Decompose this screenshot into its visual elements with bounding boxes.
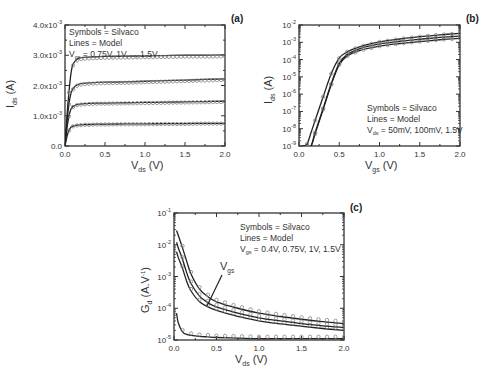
- y-tick-label: 10-4: [282, 54, 296, 65]
- legend-line-2: Lines = Model: [240, 233, 293, 243]
- y-tick-label: 10-2: [282, 19, 296, 30]
- y-tick-label: 10-6: [282, 88, 296, 99]
- silvaco-symbol: [223, 306, 226, 309]
- y-axis-label-a: Ids (A): [4, 80, 18, 108]
- y-tick-label: 3.0x10-3: [33, 49, 62, 60]
- silvaco-symbol: [215, 298, 218, 301]
- panel-label-a: (a): [231, 13, 243, 24]
- legend-line-3: Vds = 50mV, 100mV, 1.5V: [367, 125, 463, 136]
- x-tick-label: 2.0: [454, 150, 466, 159]
- silvaco-symbol: [334, 319, 337, 322]
- silvaco-symbol: [308, 335, 311, 338]
- silvaco-symbol: [283, 313, 286, 316]
- silvaco-symbol: [291, 335, 294, 338]
- y-tick-label: 10-1: [157, 207, 171, 218]
- legend-line-1: Symbols = Silvaco: [240, 222, 310, 232]
- silvaco-symbol: [325, 318, 328, 321]
- x-tick-label: 2.0: [219, 150, 231, 159]
- silvaco-symbol: [291, 315, 294, 318]
- silvaco-symbol: [206, 333, 209, 336]
- silvaco-symbol: [249, 308, 252, 311]
- x-axis-label-c: Vds (V): [235, 353, 267, 367]
- silvaco-symbol: [283, 335, 286, 338]
- figure: (a) 0.00.51.01.52.00.01.0x10-32.0x10-33.…: [0, 0, 496, 384]
- y-tick-label: 2.0x10-3: [33, 80, 62, 91]
- x-tick-label: 1.0: [139, 150, 151, 159]
- silvaco-symbol: [215, 303, 218, 306]
- y-tick-label: 4.0x10-3: [33, 19, 62, 30]
- vgs-annotation-label: Vgs: [220, 260, 235, 275]
- chart-c: (c) 0.00.51.01.52.010-510-410-310-210-1 …: [139, 202, 362, 367]
- x-tick-label: 0.5: [334, 150, 346, 159]
- y-tick-label: 10-3: [157, 271, 171, 282]
- silvaco-symbol: [266, 311, 269, 314]
- y-tick-label: 10-8: [282, 123, 296, 134]
- silvaco-symbol: [249, 335, 252, 338]
- silvaco-symbol: [189, 332, 192, 335]
- y-tick-label: 10-5: [282, 71, 296, 82]
- legend-line-1: Symbols = Silvaco: [367, 103, 437, 113]
- legend-line-2: Lines = Model: [69, 38, 122, 48]
- silvaco-symbol: [300, 316, 303, 319]
- legend-b: Symbols = Silvaco Lines = Model Vds = 50…: [367, 103, 463, 136]
- x-axis-label-a: Vds (V): [131, 159, 163, 173]
- silvaco-symbol: [198, 333, 201, 336]
- x-tick-label: 0.0: [293, 150, 305, 159]
- model-line: [65, 79, 225, 146]
- silvaco-symbol: [240, 306, 243, 309]
- y-axis-label-c: Gd (A.V-1): [139, 267, 153, 313]
- y-axis-label-b: Ids (A): [262, 76, 276, 104]
- x-axis-label-b: Vgs (V): [365, 159, 397, 174]
- silvaco-symbol: [240, 335, 243, 338]
- legend-line-1: Symbols = Silvaco: [69, 27, 139, 37]
- y-tick-label: 10-3: [282, 36, 296, 47]
- y-tick-label: 10-7: [282, 105, 296, 116]
- silvaco-symbol: [317, 317, 320, 320]
- x-tick-label: 1.0: [253, 344, 265, 353]
- silvaco-symbol: [325, 335, 328, 338]
- ticks-a: 0.00.51.01.52.00.01.0x10-32.0x10-33.0x10…: [33, 19, 231, 159]
- silvaco-symbol: [266, 335, 269, 338]
- y-tick-label: 1.0x10-3: [33, 110, 62, 121]
- x-tick-label: 0.0: [59, 150, 71, 159]
- silvaco-symbol: [317, 335, 320, 338]
- silvaco-symbol: [274, 335, 277, 338]
- panel-label-b: (b): [466, 13, 479, 24]
- silvaco-symbol: [232, 303, 235, 306]
- x-tick-label: 1.0: [374, 150, 386, 159]
- legend-line-3: Vgs = 0.75V, 1V,..., 1.5V: [69, 49, 158, 60]
- legend-a: Symbols = Silvaco Lines = Model Vgs = 0.…: [69, 27, 158, 60]
- silvaco-symbol: [257, 310, 260, 313]
- x-tick-label: 1.5: [179, 150, 191, 159]
- silvaco-symbol: [223, 334, 226, 337]
- chart-a: (a) 0.00.51.01.52.00.01.0x10-32.0x10-33.…: [4, 13, 243, 173]
- y-tick-label: 10-2: [157, 239, 171, 250]
- x-tick-label: 2.0: [338, 344, 350, 353]
- x-tick-label: 1.5: [414, 150, 426, 159]
- x-tick-label: 0.5: [211, 344, 223, 353]
- silvaco-symbol: [223, 301, 226, 304]
- silvaco-symbol: [232, 308, 235, 311]
- curves-a: [65, 55, 227, 146]
- chart-b: (b) 0.00.51.01.52.010-910-810-710-610-51…: [262, 13, 479, 174]
- y-tick-label: 10-4: [157, 302, 171, 313]
- legend-line-2: Lines = Model: [367, 114, 420, 124]
- x-tick-label: 1.5: [296, 344, 308, 353]
- legend-line-3: Vgs = 0.4V, 0.75V, 1V, 1.5V: [240, 244, 341, 255]
- silvaco-symbol: [232, 334, 235, 337]
- y-tick-label: 0.0: [51, 142, 63, 151]
- silvaco-symbol: [274, 312, 277, 315]
- x-tick-label: 0.0: [168, 344, 180, 353]
- x-tick-label: 0.5: [99, 150, 111, 159]
- silvaco-symbol: [308, 317, 311, 320]
- legend-c: Symbols = Silvaco Lines = Model Vgs = 0.…: [240, 222, 341, 255]
- panel-label-c: (c): [350, 202, 362, 213]
- silvaco-symbol: [334, 335, 337, 338]
